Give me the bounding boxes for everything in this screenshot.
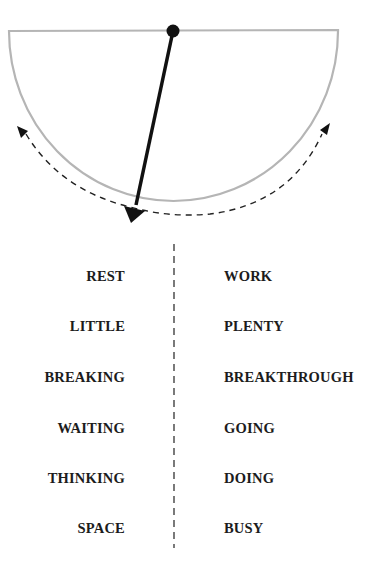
left-word-little: LITTLE <box>70 317 125 335</box>
right-word-doing: DOING <box>224 469 274 487</box>
column-divider <box>173 244 175 548</box>
left-word-breaking: BREAKING <box>44 368 125 386</box>
right-word-going: GOING <box>224 419 275 437</box>
right-word-plenty: PLENTY <box>224 317 284 335</box>
pendulum-arrowhead-icon <box>124 206 145 223</box>
right-word-breakthrough: BREAKTHROUGH <box>224 368 354 386</box>
pendulum-diagram <box>0 0 379 240</box>
left-word-thinking: THINKING <box>48 469 125 487</box>
pivot-icon <box>167 25 180 38</box>
right-word-busy: BUSY <box>224 519 263 537</box>
bowl-outline <box>9 30 338 201</box>
swing-arrowhead-left-icon <box>17 126 28 138</box>
left-word-space: SPACE <box>78 519 125 537</box>
left-word-waiting: WAITING <box>58 419 125 437</box>
left-word-rest: REST <box>86 267 125 285</box>
swing-arrowhead-right-icon <box>320 123 330 135</box>
right-word-work: WORK <box>224 267 272 285</box>
pendulum-rod <box>136 31 173 205</box>
swing-arc-dashed <box>26 134 322 215</box>
